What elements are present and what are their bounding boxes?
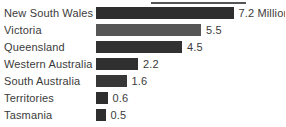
bar (96, 58, 138, 70)
category-label: Tasmania (4, 109, 96, 121)
chart-row: South Australia 1.6 (4, 72, 285, 89)
value-label: 2.2 (143, 58, 159, 70)
bar (96, 41, 182, 53)
category-label: Western Australia (4, 58, 96, 70)
category-label: Queensland (4, 41, 96, 53)
bar (96, 109, 106, 121)
chart-row: Victoria 5.5 (4, 21, 285, 38)
chart-row: Territories 0.6 (4, 89, 285, 106)
bar (96, 75, 127, 87)
chart-row: New South Wales 7.2 Million (4, 4, 285, 21)
value-label: 1.6 (132, 75, 148, 87)
value-label: 0.5 (111, 109, 127, 121)
bar (96, 92, 108, 104)
category-label: Victoria (4, 24, 96, 36)
chart-row: Western Australia 2.2 (4, 55, 285, 72)
value-label: 4.5 (187, 41, 203, 53)
value-label: 0.6 (113, 92, 129, 104)
bar (96, 7, 234, 19)
chart-row: Tasmania 0.5 (4, 106, 285, 123)
chart-row: Queensland 4.5 (4, 38, 285, 55)
bar (96, 24, 201, 36)
category-label: South Australia (4, 75, 96, 87)
category-label: New South Wales (4, 7, 96, 19)
value-label: 7.2 Million (239, 7, 286, 19)
value-label: 5.5 (206, 24, 222, 36)
population-bar-chart: New South Wales 7.2 Million Victoria 5.5… (4, 4, 285, 123)
category-label: Territories (4, 92, 96, 104)
